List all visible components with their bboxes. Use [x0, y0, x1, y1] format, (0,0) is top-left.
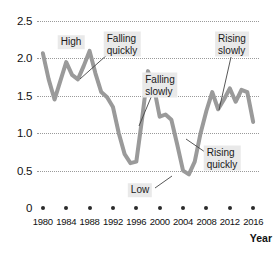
- annotation-high: High: [58, 35, 85, 49]
- line-chart: 2.52.01.51.00.50 19801984198819921996200…: [0, 0, 278, 257]
- x-axis-tick-label: 2004: [173, 216, 193, 227]
- x-axis-tick-label: 2016: [243, 216, 263, 227]
- x-axis-tick-label: 2012: [220, 216, 240, 227]
- x-axis-tick-marker: [158, 206, 162, 210]
- annotation-falling-slowly: Falling slowly: [142, 73, 177, 98]
- gridline: [37, 133, 259, 134]
- annotation-falling-quickly: Falling quickly: [104, 32, 141, 57]
- y-axis-tick-label: 0: [26, 202, 32, 214]
- gridline: [37, 58, 259, 59]
- x-axis-tick-marker: [251, 206, 255, 210]
- x-axis-tick-label: 1992: [103, 216, 123, 227]
- y-axis-tick-label: 2.0: [17, 52, 32, 64]
- gridline: [37, 171, 259, 172]
- x-axis-title: Year: [250, 232, 272, 244]
- x-axis-tick-marker: [228, 206, 232, 210]
- x-axis-tick-label: 1996: [126, 216, 146, 227]
- x-axis-tick-marker: [181, 206, 185, 210]
- x-axis-tick-marker: [204, 206, 208, 210]
- y-axis-tick-label: 1.0: [17, 127, 32, 139]
- x-axis-tick-marker: [41, 206, 45, 210]
- x-axis-tick-label: 2008: [196, 216, 216, 227]
- x-axis-tick-label: 2000: [150, 216, 170, 227]
- x-axis-tick-marker: [134, 206, 138, 210]
- y-axis-tick-label: 2.5: [17, 15, 32, 27]
- chart-title: [0, 0, 278, 4]
- gridline: [37, 21, 259, 22]
- y-axis-tick-label: 0.5: [17, 165, 32, 177]
- annotation-low: Low: [128, 183, 152, 197]
- x-axis-tick-label: 1980: [33, 216, 53, 227]
- x-axis-tick-marker: [111, 206, 115, 210]
- x-axis-tick-label: 1984: [56, 216, 76, 227]
- annotation-rising-slowly: Rising slowly: [215, 32, 249, 57]
- x-axis-tick-label: 1988: [80, 216, 100, 227]
- x-axis-tick-marker: [88, 206, 92, 210]
- annotation-rising-quickly: Rising quickly: [204, 146, 241, 171]
- x-axis-tick-marker: [64, 206, 68, 210]
- y-axis-tick-label: 1.5: [17, 90, 32, 102]
